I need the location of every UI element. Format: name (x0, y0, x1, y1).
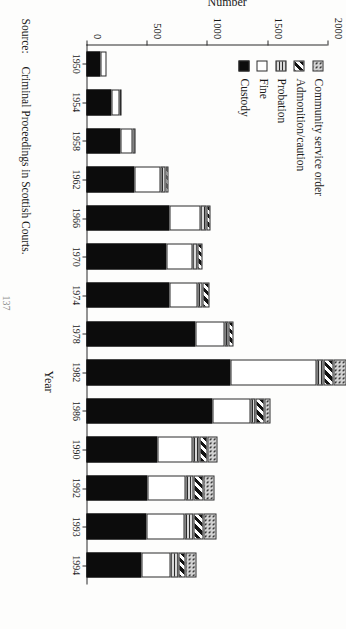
bar-segment-fine (100, 51, 106, 76)
bar-segment-custody (86, 243, 166, 268)
x-tick-label: 1970 (70, 246, 81, 266)
bar-segment-custody (86, 475, 147, 500)
bar-segment-community-service-order (207, 436, 217, 461)
bar-segment-fine (146, 513, 184, 538)
source-label: Source: (19, 18, 31, 66)
table-row (86, 436, 217, 461)
bar-segment-probation (160, 166, 165, 191)
table-row (86, 166, 168, 191)
x-tick-label: 1950 (70, 53, 81, 73)
table-row (86, 513, 216, 538)
legend-label: Custody (238, 78, 250, 116)
y-tick-label: 1000 (212, 17, 223, 39)
table-row (86, 398, 270, 423)
bar-segment-custody (86, 552, 141, 577)
bar-segment-fine (212, 398, 250, 423)
bar-segment-probation (185, 475, 193, 500)
bar-segment-custody (86, 436, 157, 461)
bar-segment-admonition-caution (228, 321, 233, 346)
legend-label: Probation (275, 78, 287, 123)
legend-swatch-icon (257, 60, 268, 71)
legend-swatch-icon (238, 60, 249, 71)
x-tick-label: 1993 (70, 516, 81, 536)
bar-segment-admonition-caution (197, 243, 201, 268)
bar-segment-fine (147, 475, 184, 500)
bar-segment-probation (197, 282, 202, 307)
y-tick-label: 0 (92, 34, 103, 39)
bar-segment-probation (192, 243, 197, 268)
bar-segment-fine (157, 436, 192, 461)
x-tick-label: 1962 (70, 169, 81, 189)
legend-item: Probation (273, 60, 288, 196)
bar-segment-admonition-caution (206, 205, 210, 230)
x-tick-label: 1954 (70, 92, 81, 112)
legend-swatch-icon (294, 60, 305, 71)
bar-segment-community-service-order (203, 513, 216, 538)
page-number: 137 (0, 295, 11, 310)
legend-item: Custody (236, 60, 251, 196)
table-row (86, 282, 209, 307)
y-tick-label: 1500 (272, 17, 283, 39)
bar-segment-fine (169, 282, 197, 307)
y-tick (327, 40, 328, 45)
source-note: Source:Criminal Proceedings in Scottish … (19, 18, 31, 254)
bar-segment-custody (86, 321, 195, 346)
bar-segment-probation (224, 321, 228, 346)
bar-segment-custody (86, 359, 230, 384)
legend-label: Community service order (312, 78, 324, 196)
bar-segment-custody (86, 51, 100, 76)
bar-segment-probation (316, 359, 323, 384)
x-tick-label: 1990 (70, 439, 81, 459)
x-tick-label: 1966 (70, 208, 81, 228)
bar-segment-custody (86, 513, 146, 538)
legend-label: Admonition/caution (293, 78, 305, 171)
bar-segment-fine (141, 552, 170, 577)
bar-segment-probation (170, 552, 178, 577)
source-text: Criminal Proceedings in Scottish Courts. (19, 66, 31, 254)
bar-segment-fine (166, 243, 193, 268)
bar-segment-admonition-caution (165, 166, 168, 191)
y-tick-label: 500 (152, 23, 163, 39)
y-axis-title: Number (207, 0, 246, 9)
legend-label: Fine (256, 78, 268, 98)
bar-segment-fine (195, 321, 224, 346)
bar-segment-custody (86, 128, 120, 153)
x-tick-label: 1974 (70, 285, 81, 305)
legend-swatch-icon (275, 60, 286, 71)
table-row (86, 51, 106, 76)
bar-segment-probation (184, 513, 192, 538)
bar-segment-admonition-caution (193, 513, 204, 538)
bar-segment-fine (230, 359, 316, 384)
table-row (86, 205, 210, 230)
x-tick-label: 1958 (70, 130, 81, 150)
y-tick (86, 40, 87, 45)
bar-segment-admonition-caution (255, 398, 264, 423)
bar-segment-probation (250, 398, 255, 423)
bar-segment-probation (119, 89, 121, 114)
legend-item: Fine (255, 60, 270, 196)
bar-segment-probation (200, 205, 206, 230)
bar-segment-custody (86, 205, 169, 230)
y-tick-label: 2000 (333, 17, 344, 39)
table-row (86, 243, 202, 268)
x-tick-label: 1994 (70, 555, 81, 575)
legend: Community service orderAdmonition/cautio… (233, 60, 326, 196)
table-row (86, 128, 135, 153)
bar-segment-probation (132, 128, 135, 153)
x-axis-line (86, 44, 87, 584)
x-tick-label: 1992 (70, 478, 81, 498)
legend-item: Community service order (310, 60, 325, 196)
bar-segment-admonition-caution (199, 436, 207, 461)
x-tick-label: 1978 (70, 323, 81, 343)
bar-segment-fine (111, 89, 119, 114)
bar-segment-custody (86, 398, 212, 423)
x-tick-label: 1982 (70, 362, 81, 382)
y-tick (146, 40, 147, 45)
legend-item: Admonition/caution (292, 60, 307, 196)
bar-segment-community-service-order (333, 359, 346, 384)
bar-segment-fine (134, 166, 160, 191)
bar-segment-custody (86, 166, 134, 191)
table-row (86, 552, 196, 577)
table-row (86, 475, 214, 500)
